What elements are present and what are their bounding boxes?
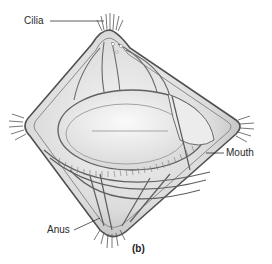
cilia-tuft-top [97, 13, 123, 31]
anus-label: Anus [47, 225, 70, 235]
cilia-label: Cilia [24, 16, 43, 26]
mouth-label: Mouth [226, 148, 254, 158]
organism-illustration [0, 0, 272, 264]
panel-label: (b) [132, 244, 145, 254]
cilia-tuft-left [9, 114, 26, 140]
larva-diagram: Cilia Mouth Anus (b) [0, 0, 272, 264]
